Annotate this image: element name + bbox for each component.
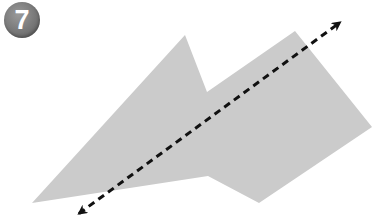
figure bbox=[0, 0, 376, 216]
gray-polygon-shape bbox=[32, 31, 372, 203]
